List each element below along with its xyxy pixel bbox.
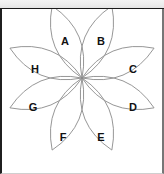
- petal-label-a: A: [61, 35, 69, 47]
- toolbar-mark: [1, 1, 7, 6]
- petal-label-h: H: [31, 63, 39, 75]
- petal-g: [10, 76, 82, 109]
- petal-d: [82, 76, 154, 109]
- petal-label-e: E: [97, 131, 104, 143]
- petal-c: [82, 46, 154, 79]
- rosette-diagram: ABCDEFGH: [2, 9, 162, 172]
- petal-label-f: F: [60, 131, 67, 143]
- petal-label-g: G: [29, 101, 38, 113]
- petal-label-c: C: [129, 63, 137, 75]
- diagram-canvas: ABCDEFGH: [0, 9, 164, 174]
- toolbar: [0, 0, 164, 9]
- petal-h: [10, 46, 82, 79]
- petal-label-b: B: [97, 35, 105, 47]
- app-window: ABCDEFGH: [0, 0, 164, 174]
- petal-f: [50, 78, 83, 150]
- petal-label-d: D: [129, 101, 137, 113]
- petal-group: [10, 9, 154, 150]
